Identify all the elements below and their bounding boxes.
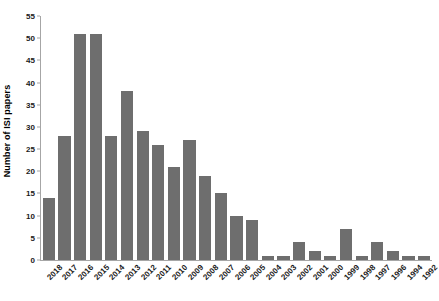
bar-slot xyxy=(72,10,88,260)
bar-2015[interactable] xyxy=(90,34,102,260)
x-label-slot: 2014 xyxy=(104,261,120,301)
x-label-slot: 2002 xyxy=(291,261,307,301)
bar-slot xyxy=(323,10,339,260)
bar-2016[interactable] xyxy=(74,34,86,260)
y-tick-mark-55 xyxy=(37,16,40,17)
y-tick-mark-45 xyxy=(37,60,40,61)
y-tick-mark-20 xyxy=(37,171,40,172)
x-label-slot: 2009 xyxy=(182,261,198,301)
bar-2001[interactable] xyxy=(309,251,321,260)
y-tick-mark-5 xyxy=(37,237,40,238)
y-tick-mark-25 xyxy=(37,149,40,150)
x-label-slot: 1994 xyxy=(401,261,417,301)
x-axis-ticks: 2018201720162015201420132012201120102009… xyxy=(41,261,432,301)
bar-2011[interactable] xyxy=(152,145,164,260)
bar-slot xyxy=(276,10,292,260)
bar-2014[interactable] xyxy=(105,136,117,260)
bar-slot xyxy=(229,10,245,260)
x-label-slot: 2000 xyxy=(323,261,339,301)
bar-slot xyxy=(135,10,151,260)
bar-slot xyxy=(385,10,401,260)
bar-slot xyxy=(57,10,73,260)
x-label-slot: 1992 xyxy=(416,261,432,301)
bar-slot xyxy=(88,10,104,260)
y-tick-mark-10 xyxy=(37,215,40,216)
x-label-slot: 2017 xyxy=(57,261,73,301)
y-tick-mark-50 xyxy=(37,38,40,39)
bar-slot xyxy=(291,10,307,260)
x-label-slot: 2008 xyxy=(197,261,213,301)
x-label-slot: 1999 xyxy=(338,261,354,301)
bar-2005[interactable] xyxy=(246,220,258,260)
bar-slot xyxy=(197,10,213,260)
bar-2004[interactable] xyxy=(262,256,274,260)
y-tick-mark-35 xyxy=(37,104,40,105)
x-label-slot: 2015 xyxy=(88,261,104,301)
bar-2017[interactable] xyxy=(58,136,70,260)
x-label-slot: 1998 xyxy=(354,261,370,301)
y-tick-mark-30 xyxy=(37,126,40,127)
bar-slot xyxy=(416,10,432,260)
bar-2000[interactable] xyxy=(324,256,336,260)
x-label-slot: 2007 xyxy=(213,261,229,301)
bar-2009[interactable] xyxy=(183,140,195,260)
bar-slot xyxy=(401,10,417,260)
x-label-slot: 2013 xyxy=(119,261,135,301)
bar-1997[interactable] xyxy=(371,242,383,260)
bar-2006[interactable] xyxy=(230,216,242,260)
bar-2002[interactable] xyxy=(293,242,305,260)
bar-slot xyxy=(338,10,354,260)
y-tick-mark-0 xyxy=(37,260,40,261)
bar-slot xyxy=(244,10,260,260)
y-tick-mark-40 xyxy=(37,82,40,83)
bar-series xyxy=(41,10,432,260)
y-axis-title: Number of ISI papers xyxy=(0,0,14,262)
bar-1999[interactable] xyxy=(340,229,352,260)
x-label-slot: 1996 xyxy=(385,261,401,301)
y-axis-title-text: Number of ISI papers xyxy=(2,85,12,178)
bar-2007[interactable] xyxy=(215,193,227,260)
bar-2003[interactable] xyxy=(277,256,289,260)
bar-2012[interactable] xyxy=(137,131,149,260)
bar-2013[interactable] xyxy=(121,91,133,260)
bar-1994[interactable] xyxy=(402,256,414,260)
bar-slot xyxy=(104,10,120,260)
bar-slot xyxy=(213,10,229,260)
bar-1992[interactable] xyxy=(418,256,430,260)
bar-slot xyxy=(354,10,370,260)
x-label-slot: 2001 xyxy=(307,261,323,301)
bar-slot xyxy=(41,10,57,260)
bar-slot xyxy=(166,10,182,260)
bar-slot xyxy=(119,10,135,260)
y-tick-mark-15 xyxy=(37,193,40,194)
x-label-slot: 2016 xyxy=(72,261,88,301)
bar-slot xyxy=(150,10,166,260)
bar-2010[interactable] xyxy=(168,167,180,260)
x-label-slot: 2005 xyxy=(244,261,260,301)
bar-slot xyxy=(307,10,323,260)
bar-slot xyxy=(182,10,198,260)
x-label-slot: 1997 xyxy=(369,261,385,301)
x-label-slot: 2011 xyxy=(150,261,166,301)
bar-2018[interactable] xyxy=(43,198,55,260)
bar-slot xyxy=(369,10,385,260)
plot-area: 0510152025303540455055 xyxy=(40,10,432,260)
bar-2008[interactable] xyxy=(199,176,211,260)
bar-1996[interactable] xyxy=(387,251,399,260)
x-label-slot: 2018 xyxy=(41,261,57,301)
x-label-slot: 2003 xyxy=(276,261,292,301)
x-label-slot: 2010 xyxy=(166,261,182,301)
bar-1998[interactable] xyxy=(356,256,368,260)
x-tick-label-1992: 1992 xyxy=(421,263,439,282)
x-label-slot: 2004 xyxy=(260,261,276,301)
x-label-slot: 2012 xyxy=(135,261,151,301)
x-label-slot: 2006 xyxy=(229,261,245,301)
bar-slot xyxy=(260,10,276,260)
